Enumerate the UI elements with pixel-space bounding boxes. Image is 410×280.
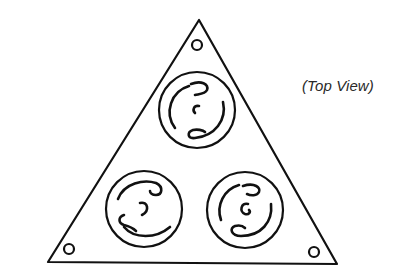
slot-top-hook (243, 185, 259, 196)
receptacle-bottom-right (207, 172, 283, 248)
slot-left (219, 185, 239, 220)
receptacle-plate-diagram (0, 0, 410, 280)
mounting-hole-bottom-right (309, 247, 319, 257)
slot-top-hook (118, 182, 161, 199)
receptacle-top (159, 72, 235, 148)
slot-left-hook (120, 215, 137, 231)
ground-pin (194, 106, 199, 113)
slot-right-hook (232, 204, 272, 236)
ground-pin (241, 204, 249, 214)
mounting-hole-top (192, 40, 202, 50)
slot-top-hook (191, 82, 207, 95)
mounting-hole-bottom-left (64, 244, 74, 254)
triangle-plate (48, 20, 337, 264)
view-caption: (Top View) (302, 77, 374, 94)
slot-left (170, 86, 189, 128)
ground-pin (140, 203, 147, 215)
receptacle-bottom-left (106, 171, 182, 247)
